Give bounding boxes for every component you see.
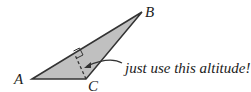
triangle-diagram: A B C just use this altitude!	[0, 0, 251, 92]
annotation-text: just use this altitude!	[123, 60, 250, 76]
label-c: C	[88, 78, 99, 92]
label-b: B	[145, 4, 154, 20]
label-a: A	[13, 71, 24, 87]
